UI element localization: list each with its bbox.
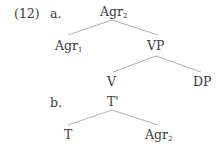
example-number: (12) bbox=[14, 7, 40, 20]
node-agr2: Agr2 bbox=[145, 128, 172, 146]
node-t-bar: T' bbox=[107, 95, 119, 108]
node-t: T bbox=[64, 128, 72, 141]
tree-a-label: a. bbox=[50, 7, 61, 20]
node-agr2-root: Agr2 bbox=[100, 5, 127, 23]
node-v: V bbox=[107, 75, 116, 88]
node-agr1: Agr1 bbox=[55, 39, 82, 57]
node-vp: VP bbox=[147, 39, 164, 52]
node-dp: DP bbox=[193, 75, 211, 88]
tree-b-label: b. bbox=[50, 96, 62, 109]
